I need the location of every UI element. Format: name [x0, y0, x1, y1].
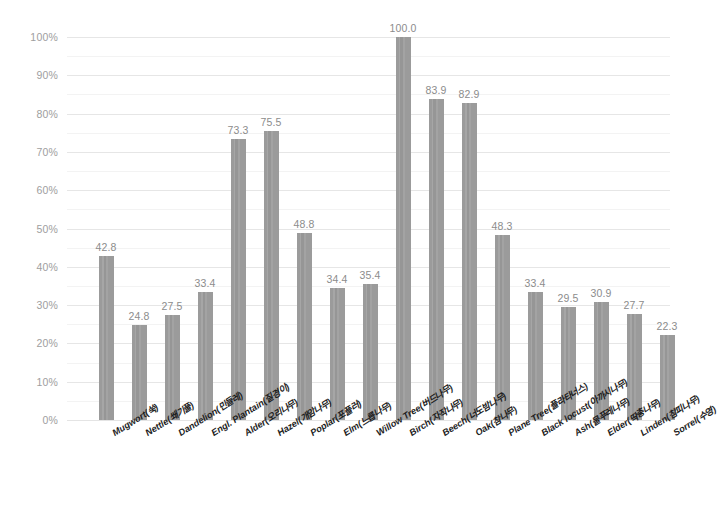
- bar-group[interactable]: 83.9: [429, 37, 444, 420]
- bar-value-label: 100.0: [390, 22, 417, 34]
- bar-value-label: 22.3: [657, 320, 678, 332]
- y-axis-tick-label: 90%: [36, 69, 58, 81]
- bar-group[interactable]: 22.3: [660, 37, 675, 420]
- bar[interactable]: [561, 307, 576, 420]
- bar[interactable]: [495, 235, 510, 420]
- bar-value-label: 82.9: [459, 88, 480, 100]
- bar[interactable]: [660, 335, 675, 420]
- bar-value-label: 48.3: [492, 220, 513, 232]
- gridline-major: [67, 420, 670, 421]
- bar[interactable]: [231, 139, 246, 420]
- bar-value-label: 34.4: [327, 273, 348, 285]
- y-axis-tick-label: 50%: [36, 223, 58, 235]
- bar-value-label: 73.3: [228, 124, 249, 136]
- bar-group[interactable]: 48.3: [495, 37, 510, 420]
- bar-value-label: 42.8: [96, 241, 117, 253]
- bar-value-label: 24.8: [129, 310, 150, 322]
- bar-value-label: 35.4: [360, 269, 381, 281]
- bar-value-label: 29.5: [558, 292, 579, 304]
- bar-group[interactable]: 30.9: [594, 37, 609, 420]
- bar[interactable]: [363, 284, 378, 420]
- bar-group[interactable]: 33.4: [528, 37, 543, 420]
- bar-group[interactable]: 24.8: [132, 37, 147, 420]
- bar-group[interactable]: 33.4: [198, 37, 213, 420]
- bar-value-label: 30.9: [591, 287, 612, 299]
- bar-value-label: 33.4: [525, 277, 546, 289]
- bar[interactable]: [462, 103, 477, 421]
- bar[interactable]: [99, 256, 114, 420]
- bar-group[interactable]: 73.3: [231, 37, 246, 420]
- bar-group[interactable]: 82.9: [462, 37, 477, 420]
- bar-group[interactable]: 35.4: [363, 37, 378, 420]
- y-axis-tick-label: 30%: [36, 299, 58, 311]
- x-axis-category-label: Sorrel(수영): [670, 401, 718, 438]
- bar-value-label: 75.5: [261, 116, 282, 128]
- bar-group[interactable]: 27.5: [165, 37, 180, 420]
- bar[interactable]: [165, 315, 180, 420]
- bar-group[interactable]: 48.8: [297, 37, 312, 420]
- bar-value-label: 83.9: [426, 84, 447, 96]
- bar[interactable]: [198, 292, 213, 420]
- y-axis-tick-label: 60%: [36, 184, 58, 196]
- y-axis: 0%10%20%30%40%50%60%70%80%90%100%: [0, 0, 67, 518]
- bar-group[interactable]: 27.7: [627, 37, 642, 420]
- bar-value-label: 27.5: [162, 300, 183, 312]
- bar[interactable]: [627, 314, 642, 420]
- bar[interactable]: [330, 288, 345, 420]
- y-axis-tick-label: 100%: [30, 31, 58, 43]
- bar-value-label: 48.8: [294, 218, 315, 230]
- bar[interactable]: [396, 37, 411, 420]
- bar[interactable]: [297, 233, 312, 420]
- bar-value-label: 27.7: [624, 299, 645, 311]
- bar[interactable]: [528, 292, 543, 420]
- bar[interactable]: [429, 99, 444, 420]
- y-axis-tick-label: 20%: [36, 337, 58, 349]
- bar-group[interactable]: 100.0: [396, 37, 411, 420]
- plot-area: 42.824.827.533.473.375.548.834.435.4100.…: [67, 37, 670, 420]
- bar-group[interactable]: 34.4: [330, 37, 345, 420]
- bar-group[interactable]: 29.5: [561, 37, 576, 420]
- bar[interactable]: [594, 302, 609, 420]
- y-axis-tick-label: 40%: [36, 261, 58, 273]
- y-axis-tick-label: 0%: [42, 414, 58, 426]
- bar-group[interactable]: 42.8: [99, 37, 114, 420]
- bar-group[interactable]: 75.5: [264, 37, 279, 420]
- y-axis-tick-label: 10%: [36, 376, 58, 388]
- bar[interactable]: [132, 325, 147, 420]
- bar[interactable]: [264, 131, 279, 420]
- y-axis-tick-label: 70%: [36, 146, 58, 158]
- y-axis-tick-label: 80%: [36, 108, 58, 120]
- bar-value-label: 33.4: [195, 277, 216, 289]
